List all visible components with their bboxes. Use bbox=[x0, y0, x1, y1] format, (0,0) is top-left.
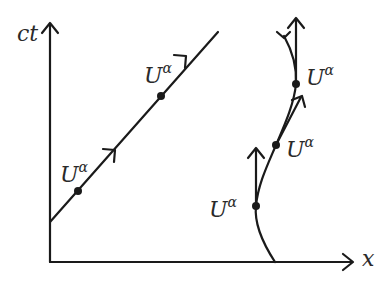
ct-axis-label: ct bbox=[17, 21, 38, 46]
curved-event-label-1: Uα bbox=[209, 194, 238, 222]
straight-event-label-2: Uα bbox=[144, 60, 173, 88]
straight-event-dot-1 bbox=[74, 187, 82, 195]
curved-event-label-3: Uα bbox=[306, 62, 335, 90]
straight-direction-arrow-icon-2 bbox=[174, 55, 186, 68]
straight-event-dot-2 bbox=[157, 92, 165, 100]
curved-worldline-arrowhead-icon bbox=[277, 32, 290, 38]
curved-event-label-2: Uα bbox=[286, 134, 315, 162]
straight-worldline bbox=[50, 32, 218, 222]
spacetime-diagram: ct x Uα Uα Uα Uα Uα bbox=[0, 0, 388, 286]
x-axis-label: x bbox=[362, 246, 375, 271]
